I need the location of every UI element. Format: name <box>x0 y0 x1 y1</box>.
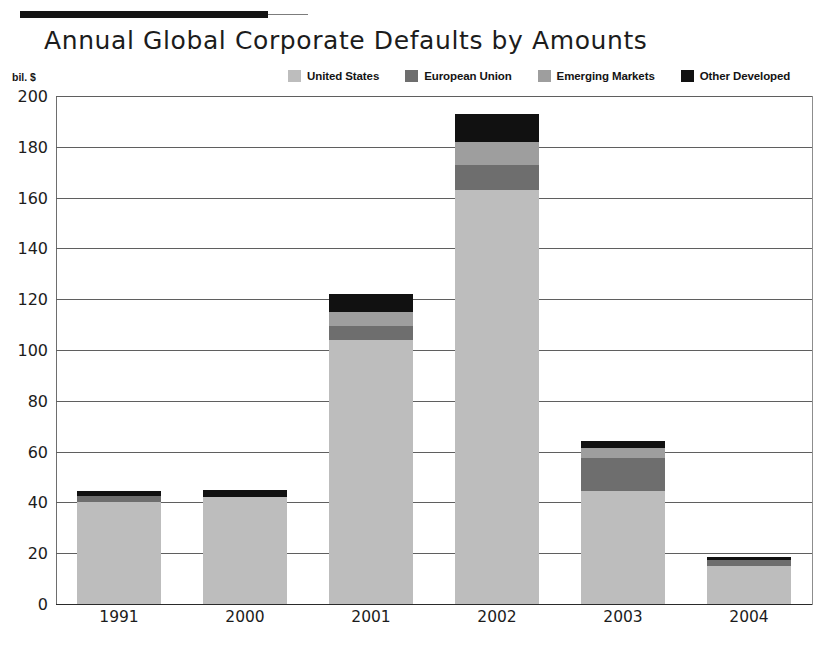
chart-figure: Annual Global Corporate Defaults by Amou… <box>0 0 824 647</box>
bar-segment[interactable] <box>329 312 413 326</box>
legend-label: Other Developed <box>700 70 791 82</box>
x-axis-tick-label: 2003 <box>560 608 686 626</box>
y-axis-unit-label: bil. $ <box>12 71 36 83</box>
bar-segment[interactable] <box>329 340 413 604</box>
bar-segment[interactable] <box>77 502 161 604</box>
bar-series-container: 199120002001200220032004 <box>56 96 812 604</box>
plot-right-border <box>812 96 813 605</box>
y-axis-tick-label: 60 <box>28 442 48 461</box>
legend-item[interactable]: United States <box>288 70 379 82</box>
bar-segment[interactable] <box>329 294 413 312</box>
bar-group: 1991 <box>56 96 182 604</box>
bar-segment[interactable] <box>203 497 287 604</box>
y-axis-tick-label: 200 <box>17 87 48 106</box>
x-axis-tick-label: 1991 <box>56 608 182 626</box>
y-axis-tick-label: 140 <box>17 239 48 258</box>
stacked-bar[interactable] <box>455 114 539 604</box>
legend-label: United States <box>307 70 379 82</box>
x-axis-tick-label: 2000 <box>182 608 308 626</box>
legend-label: Emerging Markets <box>557 70 655 82</box>
bar-segment[interactable] <box>581 458 665 491</box>
bar-group: 2003 <box>560 96 686 604</box>
bar-group: 2000 <box>182 96 308 604</box>
stacked-bar[interactable] <box>77 491 161 604</box>
x-axis-tick-label: 2002 <box>434 608 560 626</box>
x-axis-tick-label: 2001 <box>308 608 434 626</box>
header-rule <box>20 11 268 18</box>
page-title: Annual Global Corporate Defaults by Amou… <box>44 26 647 55</box>
x-axis-tick-label: 2004 <box>686 608 812 626</box>
bar-segment[interactable] <box>707 566 791 604</box>
y-axis-tick-label: 40 <box>28 493 48 512</box>
y-axis-tick-label: 80 <box>28 391 48 410</box>
bar-segment[interactable] <box>455 114 539 142</box>
bar-group: 2004 <box>686 96 812 604</box>
y-axis-tick-label: 20 <box>28 544 48 563</box>
bar-segment[interactable] <box>581 491 665 604</box>
bar-segment[interactable] <box>581 448 665 458</box>
y-axis-tick-label: 120 <box>17 290 48 309</box>
legend-swatch-icon <box>538 70 551 82</box>
y-axis-tick-label: 180 <box>17 137 48 156</box>
stacked-bar[interactable] <box>707 557 791 604</box>
legend-item[interactable]: Emerging Markets <box>538 70 655 82</box>
stacked-bar[interactable] <box>203 490 287 604</box>
header-rule-extension <box>268 14 308 15</box>
y-axis-tick-label: 100 <box>17 341 48 360</box>
bar-segment[interactable] <box>329 326 413 340</box>
plot-area: 200180160140120100806040200 199120002001… <box>56 96 812 604</box>
legend-swatch-icon <box>681 70 694 82</box>
legend-swatch-icon <box>405 70 418 82</box>
bar-segment[interactable] <box>455 190 539 604</box>
y-axis-tick-label: 160 <box>17 188 48 207</box>
bar-group: 2001 <box>308 96 434 604</box>
chart-legend: United StatesEuropean UnionEmerging Mark… <box>288 69 790 83</box>
y-axis-tick-label: 0 <box>38 595 48 614</box>
bar-segment[interactable] <box>203 490 287 498</box>
legend-swatch-icon <box>288 70 301 82</box>
legend-item[interactable]: Other Developed <box>681 70 791 82</box>
legend-item[interactable]: European Union <box>405 70 511 82</box>
legend-label: European Union <box>424 70 511 82</box>
stacked-bar[interactable] <box>581 441 665 604</box>
bar-segment[interactable] <box>455 142 539 165</box>
stacked-bar[interactable] <box>329 294 413 604</box>
bar-segment[interactable] <box>455 165 539 190</box>
x-axis-baseline: 0 <box>56 604 812 605</box>
bar-group: 2002 <box>434 96 560 604</box>
